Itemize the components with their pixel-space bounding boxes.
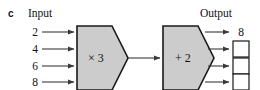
- input-value-3: 6: [14, 61, 38, 73]
- input-value-4: 8: [14, 77, 38, 89]
- input-arrows: [42, 32, 74, 82]
- output-value-1: 8: [233, 27, 249, 39]
- machine-multiply-label: × 3: [88, 52, 104, 64]
- input-header: Input: [28, 8, 52, 20]
- answer-box-2[interactable]: [233, 41, 249, 57]
- function-machine-figure: c Input Output 2 4 6 8 × 3 + 2 8: [0, 0, 260, 90]
- part-label-c: c: [8, 9, 14, 19]
- machine-add-label: + 2: [175, 52, 191, 64]
- answer-boxes[interactable]: [233, 41, 249, 90]
- answer-box-4[interactable]: [233, 74, 249, 90]
- answer-box-3[interactable]: [233, 58, 249, 74]
- output-header: Output: [200, 8, 232, 20]
- input-value-1: 2: [14, 27, 38, 39]
- input-value-2: 4: [14, 44, 38, 56]
